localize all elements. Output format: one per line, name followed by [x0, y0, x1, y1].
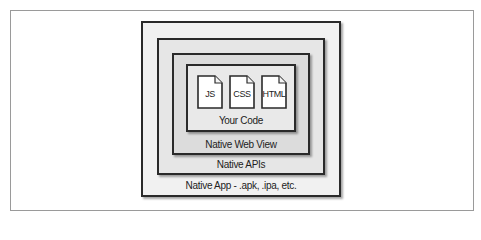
native-app-label: Native App - .apk, .ipa, etc. — [143, 180, 339, 191]
html-file: HTML — [261, 75, 287, 109]
native-web-view-label: Native Web View — [174, 139, 308, 150]
css-file: CSS — [229, 75, 255, 109]
js-file: JS — [197, 75, 223, 109]
js-file-label: JS — [197, 89, 223, 99]
your-code-label: Your Code — [188, 115, 294, 126]
html-file-label: HTML — [261, 89, 287, 99]
native-apis-label: Native APIs — [159, 159, 323, 170]
css-file-label: CSS — [229, 89, 255, 99]
your-code-layer: JS CSS HTML Your Code — [186, 64, 296, 132]
